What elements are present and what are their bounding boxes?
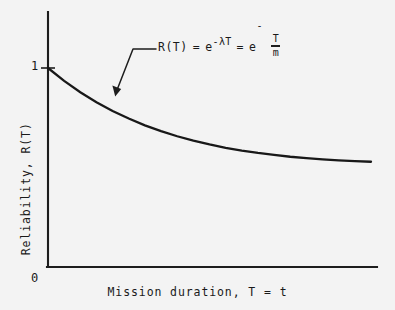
annotation-arrowhead	[112, 86, 121, 97]
formula-base-first: e	[205, 40, 212, 54]
annotation-leader-line	[117, 49, 156, 90]
formula-fraction-t-over-m: T m	[271, 34, 280, 58]
figure-canvas: 1 0 Mission duration, T = t Reliability,…	[0, 0, 395, 310]
formula-lhs: R(T)	[158, 40, 188, 54]
formula-exponent-minus-sign: -	[256, 20, 265, 31]
reliability-curve	[48, 68, 371, 162]
formula-equals-first: =	[188, 40, 205, 54]
formula-equals-second: =	[232, 40, 249, 54]
formula-fraction-denominator: m	[272, 48, 281, 58]
formula-base-second: e	[249, 40, 256, 54]
formula-exponent-fraction-group: - T m	[256, 33, 280, 58]
formula-exponent-lambda-t: -λT	[213, 36, 232, 47]
reliability-formula-annotation: R(T) = e -λT = e - T m	[158, 40, 280, 67]
y-axis-title: Reliability, R(T)	[21, 114, 33, 264]
origin-label-zero: 0	[31, 272, 39, 284]
x-axis-title: Mission duration, T = t	[0, 287, 395, 299]
formula-fraction-numerator: T	[272, 34, 281, 44]
y-axis-tick-label-one: 1	[31, 60, 39, 72]
